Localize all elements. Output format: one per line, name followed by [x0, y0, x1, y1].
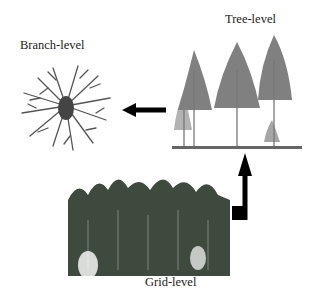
- grid-level-pointcloud: [68, 170, 230, 276]
- branch-level-pointcloud: [18, 58, 113, 153]
- trunk-blob: [58, 96, 74, 120]
- branch-level-label: Branch-level: [20, 38, 85, 53]
- grid-level-label: Grid-level: [145, 275, 196, 290]
- tree-level-pointcloud: [172, 30, 302, 152]
- tree-level-label: Tree-level: [225, 12, 276, 27]
- arrow-up-bent-icon: [230, 150, 260, 225]
- arrow-left-icon: [122, 100, 168, 120]
